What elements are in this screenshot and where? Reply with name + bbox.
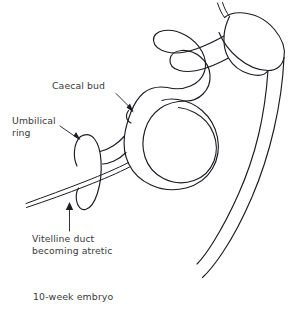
label-umbilical-ring: Umbilicalring: [12, 115, 56, 138]
caption-embryo-age: 10-week embryo: [33, 291, 113, 303]
duodenal-loop-shape: [153, 30, 228, 101]
caecal-bud-leader: [116, 94, 134, 113]
anatomy-line-drawing: [0, 0, 296, 318]
vitelline-duct-text-line2: becoming atretic: [32, 245, 112, 256]
umbilical-ring-shape: [74, 135, 101, 210]
proximal-gut-limb: [100, 136, 126, 164]
caecal-bud-text: Caecal bud: [52, 80, 105, 91]
embryo-age-text: 10-week embryo: [33, 291, 113, 302]
vitelline-duct-shape: [26, 163, 130, 208]
umbilical-ring-leader: [60, 126, 81, 140]
label-vitelline-duct: Vitelline ductbecoming atretic: [32, 233, 112, 256]
midgut-loop-shape: [124, 87, 218, 190]
embryo-gut-diagram: Caecal bud Umbilicalring Vitelline ductb…: [0, 0, 296, 318]
stomach-shape: [219, 13, 284, 76]
hindgut-shape: [197, 58, 284, 278]
vitelline-duct-leader: [66, 202, 73, 231]
umbilical-ring-text-line1: Umbilical: [12, 115, 56, 126]
umbilical-ring-text-line2: ring: [12, 127, 31, 138]
vitelline-duct-text-line1: Vitelline duct: [32, 233, 94, 244]
label-caecal-bud: Caecal bud: [52, 80, 105, 92]
